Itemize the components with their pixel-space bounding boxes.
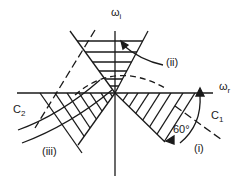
c2-label: C2 (13, 104, 25, 115)
diagram-drawing (0, 0, 251, 179)
dispersion-diagram: ωi ωr (ii) (i) (iii) C1 C2 60° (0, 0, 251, 179)
dashed-ray (35, 30, 95, 128)
omega-r-label: ωr (219, 81, 230, 92)
omega-i-label: ωi (111, 7, 121, 18)
c1-label: C1 (211, 110, 223, 121)
region-iii-hatching (55, 93, 118, 145)
region-i-label: (i) (194, 143, 204, 154)
angle-arrowhead-top (196, 88, 204, 96)
angle-label: 60° (173, 124, 190, 135)
angle-arc (180, 95, 200, 143)
region-ii-label: (ii) (166, 57, 178, 68)
region-iii-label: (iii) (42, 146, 57, 157)
